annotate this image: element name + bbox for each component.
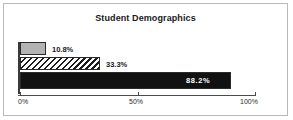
chart-title: Student Demographics bbox=[4, 13, 287, 23]
bar-series-1[interactable] bbox=[20, 42, 46, 55]
axis-tick-100 bbox=[255, 92, 256, 96]
bar-series-2[interactable] bbox=[20, 57, 100, 70]
category-axis-line bbox=[18, 95, 255, 96]
axis-label-0: 0% bbox=[18, 98, 28, 105]
axis-tick-50 bbox=[138, 92, 139, 96]
axis-label-100: 100% bbox=[240, 98, 258, 105]
bar-value-label: 33.3% bbox=[106, 61, 127, 69]
bar-value-label: 10.8% bbox=[52, 46, 73, 54]
axis-label-50: 50% bbox=[129, 98, 143, 105]
bar-value-label: 88.2% bbox=[186, 77, 210, 85]
plot-area: 0% 50% 100% 10.8% 33.3% 88.2% bbox=[18, 40, 284, 100]
axis-tick-0 bbox=[20, 92, 21, 96]
chart-frame: Student Demographics 0% 50% 100% 10.8% 3… bbox=[3, 3, 288, 116]
